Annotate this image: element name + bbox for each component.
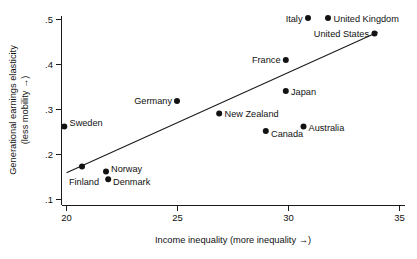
data-point-label: United States — [314, 29, 370, 39]
y-tick-label: .3 — [45, 104, 53, 115]
data-point[interactable] — [79, 164, 85, 170]
data-point[interactable] — [105, 176, 111, 182]
data-point[interactable] — [283, 88, 289, 94]
chart-canvas: .5 .4 .3 .2 .1 20 25 30 35 Income inequa… — [0, 0, 417, 259]
x-axis-ticks: 20 25 30 35 — [61, 206, 405, 224]
data-point[interactable] — [263, 128, 269, 134]
x-tick-label: 20 — [61, 212, 72, 223]
data-point-label: Italy — [286, 14, 303, 24]
scatter-plot-figure: .5 .4 .3 .2 .1 20 25 30 35 Income inequa… — [0, 0, 417, 259]
y-tick-label: .4 — [45, 59, 53, 70]
data-point-label: New Zealand — [225, 109, 279, 119]
y-tick-label: .2 — [45, 149, 53, 160]
data-point-label: Germany — [134, 96, 172, 106]
data-point-label: Finland — [69, 177, 99, 187]
data-point-label: Canada — [271, 129, 304, 139]
data-point-label: Japan — [291, 87, 316, 97]
data-point[interactable] — [216, 111, 222, 117]
data-point[interactable] — [325, 15, 331, 21]
data-point[interactable] — [174, 98, 180, 104]
data-point-label: Australia — [309, 123, 346, 133]
y-axis-title-line1: Generational earnings elasticity — [8, 45, 18, 175]
data-point-label: United Kingdom — [334, 14, 400, 24]
data-point[interactable] — [283, 57, 289, 63]
y-axis-title-line2: (less mobility →) — [20, 76, 30, 145]
data-point[interactable] — [61, 124, 67, 130]
x-axis-title: Income inequality (more inequality →) — [155, 235, 311, 245]
x-tick-label: 25 — [172, 212, 183, 223]
data-points-group: Sweden Finland Norway Denmark Germany Ne… — [61, 14, 399, 188]
data-point[interactable] — [372, 31, 378, 37]
x-tick-label: 30 — [283, 212, 294, 223]
y-tick-label: .5 — [45, 14, 53, 25]
x-tick-label: 35 — [394, 212, 405, 223]
data-point[interactable] — [301, 124, 307, 130]
data-point-label: Norway — [111, 164, 143, 174]
data-point-label: France — [252, 55, 281, 65]
data-point[interactable] — [103, 169, 109, 175]
data-point[interactable] — [305, 15, 311, 21]
y-tick-label: .1 — [45, 194, 53, 205]
y-axis-ticks: .5 .4 .3 .2 .1 — [45, 14, 61, 205]
data-point-label: Sweden — [70, 118, 103, 128]
trend-line — [67, 32, 378, 173]
data-point-label: Denmark — [113, 177, 151, 187]
